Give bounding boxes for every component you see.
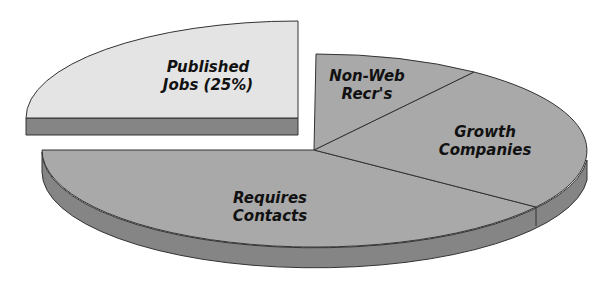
label-growth-companies: Growth Companies xyxy=(430,123,540,159)
label-published-jobs: Published Jobs (25%) xyxy=(148,58,268,94)
slice-published-jobs-side xyxy=(26,118,298,135)
label-non-web-recruiters: Non-Web Recr's xyxy=(322,67,412,103)
label-requires-contacts: Requires Contacts xyxy=(225,189,315,225)
